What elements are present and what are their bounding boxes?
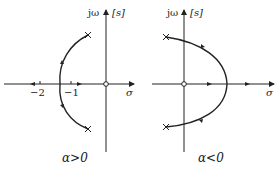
- root-locus-diagram: [0, 0, 280, 171]
- tick-label-minus-1: −1: [64, 88, 79, 98]
- right-caption: α<0: [198, 152, 224, 164]
- left-real-axis-label: σ: [126, 88, 133, 98]
- pole-marker: [85, 126, 91, 132]
- left-panel: [4, 10, 134, 152]
- right-plane-label: [s]: [190, 8, 203, 18]
- right-imag-axis-label: jω: [167, 8, 178, 18]
- left-locus-arc: [60, 35, 88, 129]
- right-locus-arc: [166, 37, 227, 127]
- right-panel: [152, 10, 274, 152]
- left-imag-axis-label: jω: [88, 8, 99, 18]
- tick-label-minus-2: −2: [30, 88, 45, 98]
- right-real-axis-label: σ: [266, 88, 273, 98]
- pole-marker: [85, 32, 91, 38]
- left-plane-label: [s]: [112, 8, 125, 18]
- root-locus-figure: jω [s] σ −2 −1 α>0 jω [s] σ α<0: [0, 0, 280, 171]
- zero-marker: [182, 82, 187, 87]
- zero-marker: [104, 82, 109, 87]
- left-caption: α>0: [62, 152, 88, 164]
